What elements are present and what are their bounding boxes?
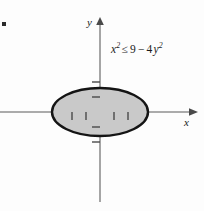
ellipse-inequality-figure: y x x2≤9−4y2 bbox=[0, 0, 204, 211]
inequality-constant: 9 bbox=[129, 43, 137, 55]
corner-mark bbox=[2, 22, 6, 26]
inequality-exponent-y: 2 bbox=[159, 41, 163, 50]
y-axis-arrowhead bbox=[96, 17, 104, 25]
x-axis-label: x bbox=[184, 117, 189, 128]
shaded-ellipse-region bbox=[52, 88, 148, 136]
inequality-annotation: x2≤9−4y2 bbox=[111, 44, 163, 56]
plot-canvas bbox=[0, 0, 204, 211]
inequality-operator: ≤ bbox=[120, 43, 129, 55]
inequality-minus: − bbox=[137, 43, 146, 55]
inequality-coefficient: 4 bbox=[146, 43, 154, 55]
y-axis-label: y bbox=[87, 17, 92, 28]
x-axis-arrowhead bbox=[189, 108, 198, 116]
